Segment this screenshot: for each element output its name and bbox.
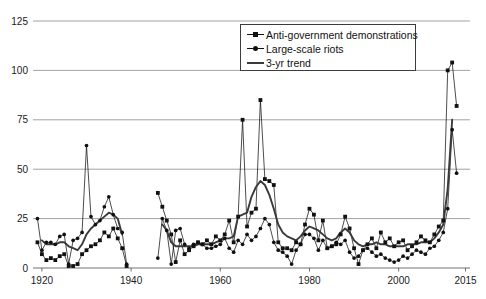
legend-item-trend: 3-yr trend: [246, 56, 410, 70]
data-point-marker: [352, 246, 356, 250]
data-point-marker: [116, 236, 120, 240]
data-point-marker: [169, 262, 173, 266]
data-point-marker: [410, 252, 414, 256]
data-point-marker: [259, 227, 263, 231]
trend-line-icon: [246, 57, 266, 69]
chart-legend: Anti-government demonstrations Large-sca…: [240, 24, 416, 71]
data-point-marker: [312, 237, 316, 241]
data-point-marker: [450, 128, 454, 132]
data-point-marker: [419, 250, 423, 254]
data-point-marker: [424, 252, 428, 256]
data-point-marker: [339, 233, 343, 237]
data-point-marker: [254, 235, 258, 239]
data-point-marker: [263, 177, 267, 181]
data-point-marker: [227, 246, 231, 250]
data-point-marker: [71, 264, 75, 268]
data-point-marker: [428, 246, 432, 250]
data-point-marker: [120, 231, 124, 235]
series-markers-group: [36, 61, 459, 268]
data-point-marker: [245, 225, 249, 229]
x-tick-label: 1940: [120, 275, 143, 286]
data-point-marker: [76, 262, 80, 266]
data-point-marker: [205, 246, 209, 250]
data-point-marker: [67, 262, 71, 266]
x-tick-label: 1980: [298, 275, 321, 286]
data-point-marker: [111, 227, 115, 231]
data-point-marker: [348, 227, 352, 231]
data-point-marker: [432, 233, 436, 237]
data-point-marker: [276, 248, 280, 252]
series-path-0: [158, 63, 457, 265]
data-point-marker: [236, 215, 240, 219]
legend-label-riots: Large-scale riots: [266, 43, 344, 55]
data-point-marker: [343, 215, 347, 219]
data-point-marker: [437, 238, 441, 242]
data-point-marker: [388, 236, 392, 240]
data-point-marker: [102, 231, 106, 235]
data-point-marker: [196, 240, 200, 244]
data-point-marker: [366, 242, 370, 246]
data-point-marker: [352, 256, 356, 260]
data-point-marker: [450, 61, 454, 65]
data-point-marker: [44, 258, 48, 262]
data-point-marker: [401, 238, 405, 242]
data-point-marker: [308, 233, 312, 237]
data-point-marker: [94, 223, 98, 227]
data-point-marker: [209, 242, 213, 246]
data-point-marker: [383, 240, 387, 244]
data-point-marker: [415, 240, 419, 244]
legend-label-trend: 3-yr trend: [266, 57, 311, 69]
data-point-marker: [223, 237, 227, 241]
data-point-marker: [357, 254, 361, 258]
data-point-marker: [415, 248, 419, 252]
data-point-marker: [187, 246, 191, 250]
data-point-marker: [285, 246, 289, 250]
data-point-marker: [250, 238, 254, 242]
data-point-marker: [290, 248, 294, 252]
data-point-marker: [227, 219, 231, 223]
data-point-marker: [432, 244, 436, 248]
data-point-marker: [281, 250, 285, 254]
square-marker-icon: [246, 29, 266, 41]
data-point-marker: [49, 240, 53, 244]
data-point-marker: [218, 242, 222, 246]
data-point-marker: [317, 248, 321, 252]
chart-figure: 0255075100125 192019401960198020002015 A…: [0, 0, 486, 299]
data-point-marker: [424, 238, 428, 242]
data-point-marker: [174, 229, 178, 233]
x-tick-label: 2000: [388, 275, 411, 286]
data-point-marker: [299, 242, 303, 246]
data-point-marker: [383, 256, 387, 260]
data-point-marker: [294, 248, 298, 252]
x-tick-label: 1960: [209, 275, 232, 286]
y-tick-label: 100: [11, 65, 28, 76]
data-point-marker: [366, 246, 370, 250]
data-point-marker: [36, 240, 40, 244]
data-point-marker: [419, 234, 423, 238]
data-point-marker: [330, 244, 334, 248]
y-tick-label: 25: [17, 213, 29, 224]
data-point-marker: [325, 246, 329, 250]
data-point-marker: [254, 207, 258, 211]
y-tick-label: 125: [11, 16, 28, 27]
data-point-marker: [201, 242, 205, 246]
data-point-marker: [446, 69, 450, 73]
data-point-marker: [80, 252, 84, 256]
data-point-marker: [236, 238, 240, 242]
circle-marker-icon: [246, 43, 266, 55]
data-point-marker: [214, 234, 218, 238]
data-point-marker: [107, 195, 111, 199]
data-point-marker: [406, 256, 410, 260]
data-point-marker: [375, 254, 379, 258]
data-point-marker: [89, 244, 93, 248]
legend-item-demonstrations: Anti-government demonstrations: [246, 28, 410, 42]
data-point-marker: [379, 252, 383, 256]
data-point-marker: [259, 98, 263, 102]
data-point-marker: [62, 252, 66, 256]
data-point-marker: [178, 238, 182, 242]
data-point-marker: [53, 242, 57, 246]
data-point-marker: [76, 237, 80, 241]
data-point-marker: [401, 254, 405, 258]
data-point-marker: [125, 262, 129, 266]
data-point-marker: [334, 240, 338, 244]
